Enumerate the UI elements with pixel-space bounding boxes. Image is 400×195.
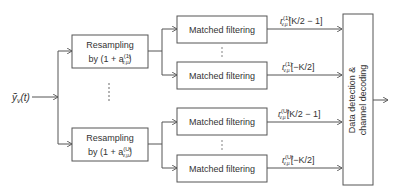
svg-text:channel decoding: channel decoding: [358, 65, 368, 136]
resampling-box-u: Resampling by (1 + a(U)v,μ): [72, 128, 148, 161]
svg-text:Matched filtering: Matched filtering: [189, 71, 255, 81]
input-signal-label: ỹv(t): [11, 92, 30, 104]
svg-text:r(1)v,μ[−K/2]: r(1)v,μ[−K/2]: [282, 61, 315, 73]
svg-text:r(U)v,μ[K/2 − 1]: r(U)v,μ[K/2 − 1]: [278, 108, 321, 120]
svg-text:Matched filtering: Matched filtering: [189, 164, 255, 174]
svg-text:ỹv(t): ỹv(t): [11, 92, 30, 104]
resampling-box-1: Resampling by (1 + a(1)v,μ): [72, 35, 148, 68]
svg-text:r(U)v,μ[−K/2]: r(U)v,μ[−K/2]: [282, 154, 315, 166]
matched-filter-box: Matched filtering: [177, 62, 267, 89]
output-label: r(1)v,μ[K/2 − 1]: [280, 15, 323, 27]
receiver-block-diagram: ỹv(t) Resampling by (1 + a(1)v,μ) Resamp…: [0, 0, 400, 195]
output-label: r(U)v,μ[K/2 − 1]: [278, 108, 321, 120]
matched-filter-box: Matched filtering: [177, 155, 267, 182]
svg-text:r(1)v,μ[K/2 − 1]: r(1)v,μ[K/2 − 1]: [280, 15, 323, 27]
svg-text:by (1 + a(U)v,μ): by (1 + a(U)v,μ): [88, 146, 132, 158]
output-label: r(U)v,μ[−K/2]: [282, 154, 315, 166]
matched-filter-box: Matched filtering: [177, 108, 267, 135]
output-arrows: [267, 29, 342, 168]
split-lines: [148, 29, 177, 168]
svg-text:Matched filtering: Matched filtering: [189, 25, 255, 35]
svg-text:by (1 + a(1)v,μ): by (1 + a(1)v,μ): [88, 53, 131, 65]
matched-filter-box: Matched filtering: [177, 16, 267, 43]
svg-text:Resampling: Resampling: [86, 40, 134, 50]
svg-text:Data detection &: Data detection &: [347, 67, 357, 134]
data-detection-decoding-box: Data detection & channel decoding: [343, 14, 373, 185]
svg-text:Resampling: Resampling: [86, 133, 134, 143]
svg-text:Matched filtering: Matched filtering: [189, 117, 255, 127]
vertical-ellipsis: [108, 83, 110, 101]
output-label: r(1)v,μ[−K/2]: [282, 61, 315, 73]
